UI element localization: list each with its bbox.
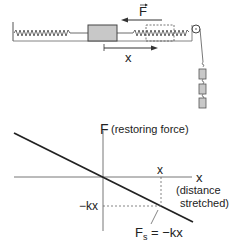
- string: [200, 29, 203, 62]
- force-label: F: [139, 4, 147, 19]
- y-axis-label: F: [100, 121, 109, 137]
- mass-block: [88, 25, 117, 41]
- force-graph: F (restoring force) x x (distance stretc…: [14, 121, 229, 242]
- displacement-label: x: [125, 50, 132, 65]
- right-spring: [117, 30, 189, 36]
- y-axis-caption: (restoring force): [111, 123, 189, 135]
- hanging-weights: [199, 62, 206, 108]
- x-tick-label: x: [157, 163, 163, 177]
- left-spring: [14, 30, 88, 36]
- spring-diagram: F x F (restoring force) x x (distance st…: [0, 0, 236, 247]
- x-axis-caption-2: stretched): [180, 197, 229, 209]
- spring-apparatus: F x: [13, 4, 206, 109]
- x-axis-caption-1: (distance: [176, 184, 221, 196]
- line-equation-label: Fs = −kx: [135, 225, 183, 242]
- label-leader: [151, 210, 158, 224]
- x-axis-label: x: [196, 170, 203, 185]
- svg-text:Fs = −kx: Fs = −kx: [135, 225, 183, 242]
- y-tick-label: −kx: [79, 199, 98, 213]
